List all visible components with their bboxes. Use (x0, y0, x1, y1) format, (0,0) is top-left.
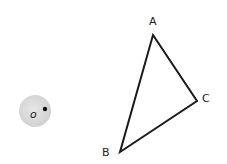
point-dot (43, 107, 47, 111)
triangle-abc: A C B (102, 15, 210, 159)
circle-o: o (19, 95, 51, 127)
triangle-shape (120, 35, 197, 152)
label-b: B (102, 146, 110, 159)
label-c: C (202, 92, 210, 105)
label-a: A (149, 15, 157, 28)
label-o: o (30, 108, 37, 121)
geometry-diagram: o A C B (0, 0, 227, 164)
